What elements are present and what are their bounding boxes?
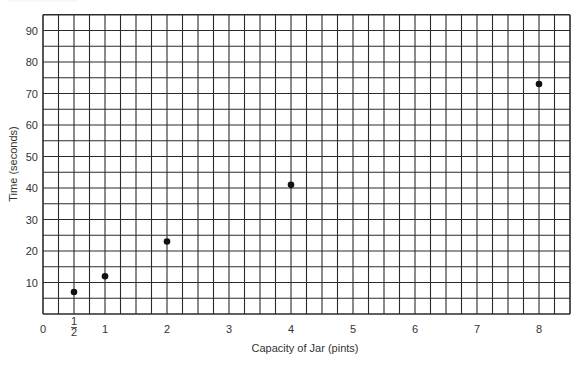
y-tick-label: 60 (26, 119, 38, 131)
data-point (102, 273, 109, 280)
x-tick-label: 3 (226, 323, 232, 335)
x-tick-label: 2 (164, 323, 170, 335)
chart-grid (43, 15, 570, 314)
y-tick-label: 90 (26, 25, 38, 37)
x-tick-label: 7 (474, 323, 480, 335)
x-tick-label-half: 12 (71, 315, 77, 338)
y-tick-label: 50 (26, 151, 38, 163)
x-tick-label: 0 (40, 323, 46, 335)
data-point (71, 289, 78, 296)
y-tick-label: 30 (26, 214, 38, 226)
x-tick-label: 5 (350, 323, 356, 335)
data-point (536, 81, 543, 88)
y-axis-tick-labels: 102030405060708090 (26, 25, 38, 289)
data-point (164, 238, 171, 245)
y-tick-label: 10 (26, 277, 38, 289)
y-tick-label: 80 (26, 56, 38, 68)
y-tick-label: 40 (26, 182, 38, 194)
x-axis-tick-labels: 01212345678 (40, 315, 542, 338)
x-tick-label: 8 (536, 323, 542, 335)
x-tick-label: 1 (102, 323, 108, 335)
y-tick-label: 70 (26, 88, 38, 100)
y-tick-label: 20 (26, 245, 38, 257)
x-tick-label: 4 (288, 323, 294, 335)
svg-text:2: 2 (71, 326, 77, 338)
scatter-chart: 01212345678 102030405060708090 Capacity … (0, 0, 577, 365)
x-axis-title: Capacity of Jar (pints) (252, 342, 359, 354)
data-point (288, 182, 295, 189)
x-tick-label: 6 (412, 323, 418, 335)
y-axis-title: Time (seconds) (7, 126, 19, 201)
